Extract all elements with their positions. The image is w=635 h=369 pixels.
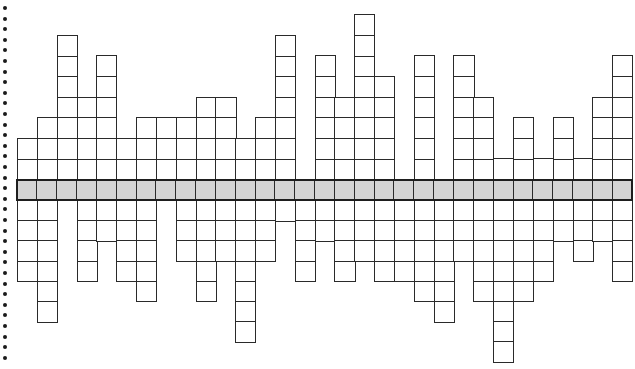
band-divider (374, 181, 375, 199)
grid-cell (315, 200, 336, 222)
grid-cell (215, 97, 236, 119)
grid-cell (592, 117, 613, 139)
grid-cell (235, 261, 256, 283)
grid-cell (453, 220, 474, 242)
margin-dot (3, 229, 7, 233)
grid-cell (493, 200, 514, 222)
grid-cell (453, 240, 474, 262)
grid-cell (553, 200, 574, 222)
band-divider (513, 181, 514, 199)
grid-cell (156, 158, 177, 180)
grid-cell (434, 240, 455, 262)
band-divider (572, 181, 573, 199)
band-divider (314, 181, 315, 199)
grid-cell (612, 76, 633, 98)
margin-dot (3, 271, 7, 275)
band-divider (175, 181, 176, 199)
grid-cell (612, 138, 633, 160)
grid-cell (533, 200, 554, 222)
grid-cell (96, 76, 117, 98)
grid-cell (592, 220, 613, 242)
grid-cell (235, 138, 256, 160)
grid-cell (57, 55, 78, 77)
grid-cell (334, 97, 355, 119)
grid-cell (215, 138, 236, 160)
grid-cell (553, 117, 574, 139)
grid-cell (553, 220, 574, 242)
grid-cell (315, 76, 336, 98)
grid-cell (453, 138, 474, 160)
grid-cell (156, 117, 177, 139)
grid-cell (434, 301, 455, 323)
grid-cell (334, 261, 355, 283)
grid-cell (37, 240, 58, 262)
grid-cell (493, 321, 514, 343)
grid-cell (96, 220, 117, 242)
grid-cell (77, 97, 98, 119)
grid-cell (453, 158, 474, 180)
grid-cell (354, 220, 375, 242)
band-divider (195, 181, 196, 199)
grid-cell (37, 220, 58, 242)
grid-cell (592, 158, 613, 180)
grid-cell (533, 261, 554, 283)
grid-cell (592, 138, 613, 160)
grid-cell (394, 200, 415, 222)
margin-dot (3, 207, 7, 211)
grid-cell (176, 117, 197, 139)
grid-cell (513, 240, 534, 262)
grid-cell (354, 55, 375, 77)
grid-cell (612, 220, 633, 242)
margin-dot (3, 154, 7, 158)
margin-dot (3, 27, 7, 31)
grid-cell (354, 14, 375, 36)
margin-dot (3, 38, 7, 42)
grid-cell (37, 200, 58, 222)
grid-cell (354, 240, 375, 262)
grid-cell (57, 117, 78, 139)
grid-cell (493, 281, 514, 303)
margin-dot (3, 101, 7, 105)
margin-dot (3, 17, 7, 21)
band-divider (294, 181, 295, 199)
grid-cell (196, 261, 217, 283)
grid-cell (473, 281, 494, 303)
grid-cell (196, 281, 217, 303)
grid-cell (374, 158, 395, 180)
band-divider (354, 181, 355, 199)
grid-cell (334, 200, 355, 222)
grid-cell (96, 117, 117, 139)
grid-cell (96, 158, 117, 180)
grid-cell (77, 240, 98, 262)
grid-cell (196, 240, 217, 262)
band-divider (215, 181, 216, 199)
grid-cell (414, 138, 435, 160)
grid-cell (176, 240, 197, 262)
margin-dot (3, 91, 7, 95)
grid-cell (275, 158, 296, 180)
margin-dot (3, 250, 7, 254)
grid-cell (176, 158, 197, 180)
grid-cell (473, 220, 494, 242)
margin-dot (3, 59, 7, 63)
grid-cell (196, 138, 217, 160)
grid-cell (315, 220, 336, 242)
grid-cell (493, 341, 514, 363)
grid-cell (37, 158, 58, 180)
margin-dot (3, 123, 7, 127)
grid-cell (533, 240, 554, 262)
grid-cell (374, 117, 395, 139)
margin-dot (3, 345, 7, 349)
grid-cell (434, 200, 455, 222)
grid-cell (57, 138, 78, 160)
band-divider (76, 181, 77, 199)
grid-cell (573, 240, 594, 262)
grid-cell (315, 55, 336, 77)
grid-cell (473, 261, 494, 283)
band-divider (532, 181, 533, 199)
grid-cell (17, 220, 38, 242)
grid-cell (176, 220, 197, 242)
band-divider (334, 181, 335, 199)
grid-cell (17, 240, 38, 262)
margin-dot (3, 282, 7, 286)
